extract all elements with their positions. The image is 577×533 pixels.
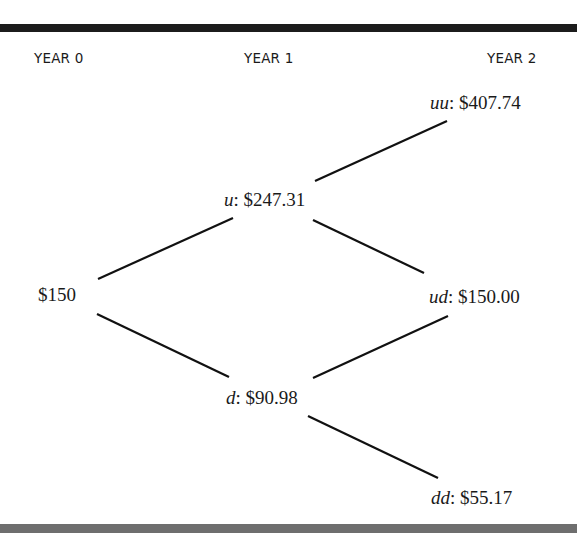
edge-root-d [97,314,229,377]
edge-root-u [98,218,233,279]
edge-d-ud [313,316,448,378]
node-dd: dd: $55.17 [431,487,512,509]
tree-edges [0,0,577,533]
edge-u-uu [315,121,447,181]
node-dd-label: dd [431,487,450,508]
node-d: d: $90.98 [226,387,298,409]
node-uu-label: uu [430,92,449,113]
edge-d-dd [308,416,438,478]
node-d-value: $90.98 [246,387,298,408]
node-ud-value: $150.00 [458,286,520,307]
bottom-rule [0,524,577,533]
node-u-sep: : [234,189,244,210]
node-root-value: $150 [38,284,76,305]
node-dd-value: $55.17 [460,487,512,508]
node-dd-sep: : [450,487,460,508]
node-u: u: $247.31 [224,189,305,211]
node-u-value: $247.31 [244,189,306,210]
edge-u-ud [313,220,424,273]
node-uu-value: $407.74 [459,92,521,113]
node-u-label: u [224,189,234,210]
node-root: $150 [38,284,76,306]
node-uu-sep: : [449,92,459,113]
node-ud-sep: : [448,286,458,307]
node-d-sep: : [236,387,246,408]
node-uu: uu: $407.74 [430,92,521,114]
node-ud: ud: $150.00 [429,286,520,308]
node-d-label: d [226,387,236,408]
node-ud-label: ud [429,286,448,307]
